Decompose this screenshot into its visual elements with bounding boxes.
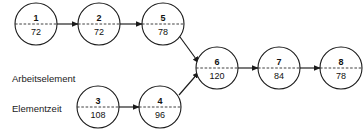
node-number-label: 2 [96,13,101,23]
diagram-canvas: 17227257831084966120784878 Arbeitselemen… [0,0,364,131]
node-time-label: 72 [31,27,41,37]
work-element-node: 878 [320,47,362,89]
node-time-label: 96 [155,110,165,120]
node-time-label: 84 [274,71,284,81]
work-element-node: 496 [139,86,181,128]
precedence-diagram: 17227257831084966120784878 Arbeitselemen… [0,0,364,131]
node-number-label: 3 [95,96,100,106]
work-element-node: 578 [142,3,184,45]
work-element-node: 784 [258,47,300,89]
node-number-label: 6 [214,57,219,67]
node-time-label: 72 [94,27,104,37]
node-time-label: 120 [209,71,224,81]
node-number-label: 1 [33,13,38,23]
node-number-label: 8 [338,57,343,67]
work-element-node: 172 [15,3,57,45]
node-number-label: 4 [157,96,162,106]
work-element-node: 3108 [77,86,119,128]
nodes-layer: 17227257831084966120784878 [15,3,362,128]
node-time-label: 78 [336,71,346,81]
work-element-node: 6120 [196,47,238,89]
node-time-label: 108 [90,110,105,120]
node-number-label: 7 [276,57,281,67]
node-time-label: 78 [158,27,168,37]
annotation-arbeitselement: Arbeitselement [12,73,76,84]
work-element-node: 272 [78,3,120,45]
edge-arrow [180,37,199,63]
annotation-elementzeit: Elementzeit [12,103,62,114]
node-number-label: 5 [160,13,165,23]
edge-arrow [179,72,199,95]
annotations-layer: ArbeitselementElementzeit [12,73,76,114]
